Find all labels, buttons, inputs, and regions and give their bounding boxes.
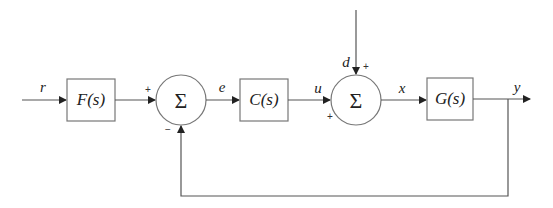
sum1-plus-sign: + bbox=[145, 84, 151, 95]
sum2-left-plus-sign: + bbox=[327, 111, 333, 122]
block-g-label: G(s) bbox=[435, 89, 466, 108]
signal-e-label: e bbox=[219, 79, 226, 95]
signal-d-label: d bbox=[342, 54, 350, 70]
sum2-sigma-symbol: Σ bbox=[350, 88, 363, 113]
signal-r-label: r bbox=[40, 79, 46, 95]
sum1-minus-sign: − bbox=[165, 124, 171, 135]
signal-x-label: x bbox=[398, 80, 406, 96]
block-diagram: r F(s) + Σ − e C(s) u + d + Σ x G(s) y bbox=[0, 0, 553, 208]
signal-u-label: u bbox=[314, 80, 322, 96]
block-c-label: C(s) bbox=[249, 90, 279, 109]
signal-y-label: y bbox=[512, 79, 521, 95]
block-f-label: F(s) bbox=[76, 90, 106, 109]
sum2-top-plus-sign: + bbox=[363, 61, 369, 72]
sum1-sigma-symbol: Σ bbox=[175, 88, 188, 113]
